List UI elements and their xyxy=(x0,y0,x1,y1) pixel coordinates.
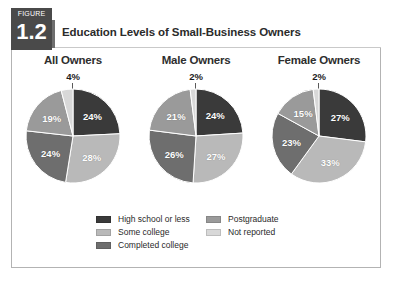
pie-slice-label: 15% xyxy=(294,107,313,118)
header-accent-bar xyxy=(52,20,55,48)
legend-swatch-icon xyxy=(96,242,111,249)
pie-slice-label: 21% xyxy=(167,111,186,122)
pie-graphic: 24%27%26%21% xyxy=(148,88,244,184)
pie-charts-row: All Owners4%24%28%24%19%Male Owners2%24%… xyxy=(12,52,380,207)
legend-label: Postgraduate xyxy=(228,214,279,225)
pie-chart-male-owners: Male Owners2%24%27%26%21% xyxy=(135,52,257,207)
chart-legend: High school or lessSome collegeCompleted… xyxy=(96,214,326,254)
figure-title: Education Levels of Small-Business Owner… xyxy=(62,26,301,38)
figure-label: FIGURE xyxy=(11,10,52,17)
figure-header: Education Levels of Small-Business Owner… xyxy=(52,20,381,48)
pie-slice-label: 27% xyxy=(331,112,350,123)
figure-root: FIGURE 1.2 Education Levels of Small-Bus… xyxy=(0,0,393,281)
legend-label: Some college xyxy=(118,227,170,238)
legend-label: Not reported xyxy=(228,227,275,238)
pie-graphic: 27%33%23%15% xyxy=(271,88,367,184)
figure-number-tab: FIGURE 1.2 xyxy=(11,8,52,50)
pie-slice-label: 26% xyxy=(165,149,184,160)
pie-slice-label: 24% xyxy=(41,148,60,159)
pie-outside-label: 2% xyxy=(258,71,380,82)
legend-label: Completed college xyxy=(118,240,188,251)
pie-chart-female-owners: Female Owners2%27%33%23%15% xyxy=(258,52,380,207)
pie-chart-title: Female Owners xyxy=(258,54,380,66)
pie-chart-title: Male Owners xyxy=(135,54,257,66)
legend-swatch-icon xyxy=(206,229,221,236)
pie-slice-label: 24% xyxy=(83,110,102,121)
pie-slice-label: 28% xyxy=(82,152,101,163)
legend-label: High school or less xyxy=(118,214,190,225)
pie-graphic: 24%28%24%19% xyxy=(25,88,121,184)
figure-number: 1.2 xyxy=(11,18,52,46)
pie-outside-label: 2% xyxy=(135,71,257,82)
pie-chart-title: All Owners xyxy=(12,54,134,66)
pie-slice-label: 27% xyxy=(206,150,225,161)
pie-outside-label: 4% xyxy=(12,71,134,82)
pie-slice-label: 33% xyxy=(321,156,340,167)
pie-chart-all-owners: All Owners4%24%28%24%19% xyxy=(12,52,134,207)
pie-slice-label: 24% xyxy=(206,110,225,121)
legend-swatch-icon xyxy=(96,229,111,236)
pie-slice-label: 19% xyxy=(42,112,61,123)
pie-slice-label: 23% xyxy=(282,137,301,148)
legend-swatch-icon xyxy=(206,216,221,223)
legend-swatch-icon xyxy=(96,216,111,223)
